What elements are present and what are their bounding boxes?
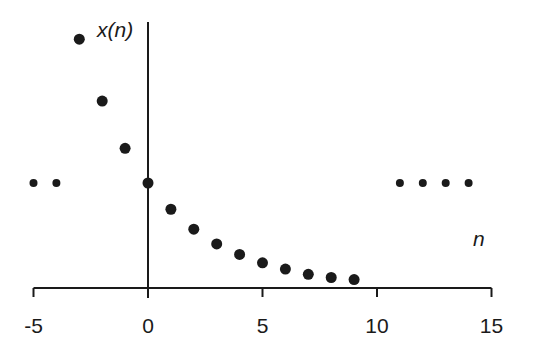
data-point	[74, 34, 85, 45]
ellipsis-dot	[396, 179, 404, 187]
ellipsis-dot	[52, 179, 60, 187]
y-axis-label: x(n)	[96, 18, 133, 41]
data-point	[303, 269, 314, 280]
data-point	[257, 257, 268, 268]
ellipsis-dot	[419, 179, 427, 187]
x-axis-label: n	[473, 227, 485, 250]
data-point	[234, 249, 245, 260]
data-point	[349, 274, 360, 285]
ellipsis-dot	[465, 179, 473, 187]
ellipsis-dot	[442, 179, 450, 187]
continuation-dots	[30, 179, 473, 187]
data-point	[143, 178, 154, 189]
x-tick-label: 15	[480, 314, 503, 337]
axes	[34, 22, 492, 298]
data-point	[211, 238, 222, 249]
data-point	[326, 272, 337, 283]
data-point	[188, 224, 199, 235]
x-tick-label: 10	[365, 314, 388, 337]
data-points	[74, 34, 360, 285]
data-point	[97, 96, 108, 107]
data-point	[165, 204, 176, 215]
x-axis-ticks: -5051015	[24, 288, 503, 337]
x-tick-label: 0	[142, 314, 154, 337]
x-tick-label: 5	[257, 314, 269, 337]
x-tick-label: -5	[24, 314, 43, 337]
data-point	[280, 264, 291, 275]
signal-plot: -5051015 x(n) n	[0, 0, 537, 362]
data-point	[120, 143, 131, 154]
ellipsis-dot	[30, 179, 38, 187]
